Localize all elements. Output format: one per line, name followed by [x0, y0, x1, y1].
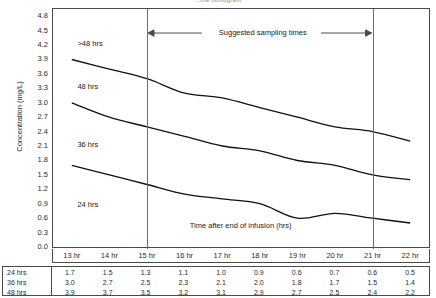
table-cell: 2.3 — [164, 277, 202, 287]
curve-label-48hrs: 48 hrs — [77, 82, 98, 91]
y-tick-label: 4.2 — [38, 41, 48, 48]
table-cell: 0.7 — [316, 267, 354, 277]
x-tick-label: 17 hr — [203, 249, 241, 262]
table-cell: 0.9 — [240, 267, 278, 277]
curve-36hrs — [72, 103, 410, 180]
table-cell: 2.1 — [202, 277, 240, 287]
table-cell: 3.7 — [89, 287, 127, 297]
y-tick-label: 0.6 — [38, 214, 48, 221]
y-tick-label: 0.3 — [38, 229, 48, 236]
table-cell: 3.0 — [51, 277, 89, 287]
curve-24hrs — [72, 165, 410, 223]
table-row: 36 hrs3.02.72.52.32.12.01.81.71.51.4 — [3, 277, 429, 287]
table-cell: 1.4 — [391, 277, 429, 287]
table-cell: 2.7 — [278, 287, 316, 297]
table-cell: 1.3 — [127, 267, 165, 277]
table-row: 48 hrs3.93.73.53.23.12.92.72.52.42.2 — [3, 287, 429, 297]
y-tick-label: 1.5 — [38, 171, 48, 178]
y-tick-label: 4.8 — [38, 12, 48, 19]
y-tick-label: 2.4 — [38, 128, 48, 135]
table-cell: 2.2 — [391, 287, 429, 297]
y-axis-ticks: 4.84.54.23.93.63.33.02.72.42.11.81.51.20… — [22, 8, 48, 248]
x-axis-title: Time after end of infusion (hrs) — [190, 221, 292, 230]
table-row-label: 48 hrs — [3, 289, 51, 296]
y-tick-label: 3.6 — [38, 70, 48, 77]
table-row: 24 hrs1.71.51.31.11.00.90.60.70.60.5 — [3, 267, 429, 277]
y-tick-label: 1.8 — [38, 156, 48, 163]
curve-over48 — [72, 60, 410, 142]
nomogram-figure: ...the nomogram Concentration (mg/L) 4.8… — [0, 0, 436, 298]
table-cell: 2.0 — [240, 277, 278, 287]
table-cell: 0.6 — [353, 267, 391, 277]
y-tick-label: 0.9 — [38, 200, 48, 207]
table-row-label: 36 hrs — [3, 279, 51, 286]
table-divider — [51, 267, 52, 295]
y-tick-label: 3.0 — [38, 99, 48, 106]
table-cell: 2.9 — [240, 287, 278, 297]
x-tick-label: 22 hr — [391, 249, 429, 262]
table-cell: 3.1 — [202, 287, 240, 297]
curve-label-24hrs: 24 hrs — [77, 200, 98, 209]
figure-title: ...the nomogram — [0, 0, 436, 3]
x-axis-tick-strip: 13 hr14 hr15 hr16 hr17 hr18 hr19 hr20 hr… — [52, 249, 430, 263]
plot-area: Suggested sampling times >48 hrs 48 hrs … — [52, 8, 430, 248]
table-cell: 1.7 — [51, 267, 89, 277]
x-tick-label: 18 hr — [241, 249, 279, 262]
vertical-marker-21hr — [373, 9, 374, 249]
y-tick-label: 2.1 — [38, 142, 48, 149]
x-tick-label: 19 hr — [279, 249, 317, 262]
table-cell: 2.7 — [89, 277, 127, 287]
table-cell: 3.2 — [164, 287, 202, 297]
vertical-marker-15hr — [147, 9, 148, 249]
sampling-times-label: Suggested sampling times — [205, 28, 321, 37]
table-cell: 1.7 — [316, 277, 354, 287]
y-tick-label: 3.3 — [38, 84, 48, 91]
y-tick-label: 1.2 — [38, 185, 48, 192]
y-tick-label: 3.9 — [38, 55, 48, 62]
curve-label-over-48hrs: >48 hrs — [77, 39, 102, 48]
table-cell: 1.1 — [164, 267, 202, 277]
table-cell: 0.5 — [391, 267, 429, 277]
x-tick-label: 15 hr — [128, 249, 166, 262]
table-cell: 1.8 — [278, 277, 316, 287]
table-cell: 3.9 — [51, 287, 89, 297]
table-row-label: 24 hrs — [3, 269, 51, 276]
data-table: 24 hrs1.71.51.31.11.00.90.60.70.60.536 h… — [2, 266, 430, 296]
table-cell: 1.5 — [353, 277, 391, 287]
table-cell: 2.5 — [316, 287, 354, 297]
table-cell: 1.0 — [202, 267, 240, 277]
table-cell: 2.5 — [127, 277, 165, 287]
table-cell: 2.4 — [353, 287, 391, 297]
y-tick-label: 0.0 — [38, 243, 48, 250]
x-tick-label: 16 hr — [166, 249, 204, 262]
table-cell: 1.5 — [89, 267, 127, 277]
y-tick-label: 4.5 — [38, 27, 48, 34]
table-cell: 3.5 — [127, 287, 165, 297]
x-tick-label: 20 hr — [316, 249, 354, 262]
curve-label-36hrs: 36 hrs — [77, 140, 98, 149]
y-tick-label: 2.7 — [38, 113, 48, 120]
x-tick-label: 13 hr — [53, 249, 91, 262]
x-tick-label: 14 hr — [91, 249, 129, 262]
table-cell: 0.6 — [278, 267, 316, 277]
x-tick-label: 21 hr — [354, 249, 392, 262]
